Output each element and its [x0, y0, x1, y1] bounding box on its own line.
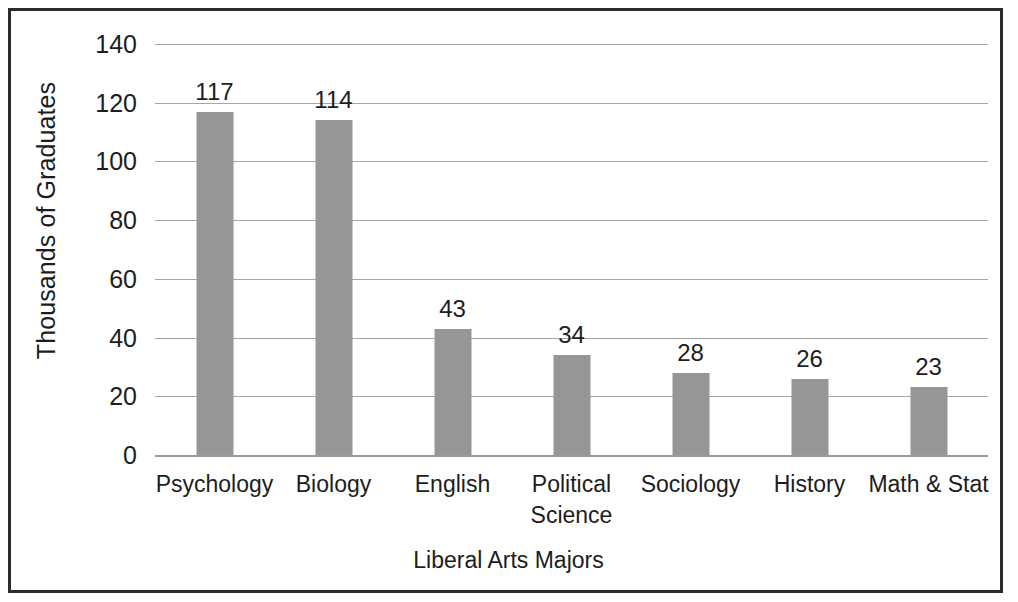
bar[interactable] — [910, 387, 947, 455]
bar[interactable] — [434, 329, 471, 455]
bar-group: 117Psychology — [155, 44, 274, 455]
plot-area: 140120100806040200 117Psychology114Biolo… — [155, 44, 988, 455]
bar-group: 23Math & Stat — [869, 44, 988, 455]
y-tick-label: 40 — [67, 323, 137, 352]
x-axis-title: Liberal Arts Majors — [11, 547, 1006, 574]
bar-group: 34Political Science — [512, 44, 631, 455]
bar-value-label: 43 — [439, 295, 466, 323]
bar[interactable] — [553, 355, 590, 455]
y-tick-label: 0 — [67, 441, 137, 470]
x-category-label: Sociology — [626, 469, 756, 500]
bar[interactable] — [791, 379, 828, 455]
x-category-label: English — [388, 469, 518, 500]
chart-frame: Thousands of Graduates 14012010080604020… — [8, 8, 1003, 593]
x-category-label: Biology — [269, 469, 399, 500]
y-tick-label: 140 — [67, 30, 137, 59]
bar-group: 43English — [393, 44, 512, 455]
bar-value-label: 23 — [915, 353, 942, 381]
bar-value-label: 28 — [677, 339, 704, 367]
bar-group: 26History — [750, 44, 869, 455]
bar-value-label: 26 — [796, 345, 823, 373]
y-tick-label: 60 — [67, 264, 137, 293]
y-tick-label: 100 — [67, 147, 137, 176]
x-category-label: History — [745, 469, 875, 500]
axis-baseline — [155, 455, 988, 457]
y-tick-label: 80 — [67, 206, 137, 235]
bar-group: 28Sociology — [631, 44, 750, 455]
bar[interactable] — [196, 112, 233, 455]
bar-value-label: 114 — [314, 86, 352, 114]
bar[interactable] — [315, 120, 352, 455]
y-tick-label: 20 — [67, 382, 137, 411]
x-category-label: Political Science — [507, 469, 637, 531]
y-axis-title: Thousands of Graduates — [32, 1, 61, 441]
y-tick-label: 120 — [67, 88, 137, 117]
bars-layer: 117Psychology114Biology43English34Politi… — [155, 44, 988, 455]
bar-value-label: 34 — [558, 321, 585, 349]
bar-value-label: 117 — [195, 78, 233, 106]
bar[interactable] — [672, 373, 709, 455]
x-category-label: Math & Stat — [864, 469, 994, 500]
x-category-label: Psychology — [150, 469, 280, 500]
bar-group: 114Biology — [274, 44, 393, 455]
